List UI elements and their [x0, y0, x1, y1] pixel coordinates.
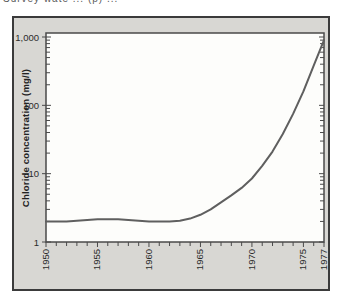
x-tick-label: 1950 — [40, 249, 51, 270]
plot-area — [46, 33, 324, 242]
y-tick-label: 1 — [34, 237, 39, 248]
chart-canvas: 19501955196019651970197519771,000100101 — [0, 0, 341, 301]
y-axis-title: Chloride concentration (mg/l) — [20, 35, 32, 241]
x-tick-label: 1960 — [143, 249, 154, 270]
x-tick-label: 1975 — [297, 249, 308, 270]
x-tick-label: 1965 — [194, 249, 205, 270]
x-tick-label: 1970 — [246, 249, 257, 270]
x-tick-label: 1955 — [91, 249, 102, 270]
page: Survey wate ... (p) ... 1950195519601965… — [0, 0, 341, 301]
x-tick-label: 1977 — [318, 249, 329, 270]
